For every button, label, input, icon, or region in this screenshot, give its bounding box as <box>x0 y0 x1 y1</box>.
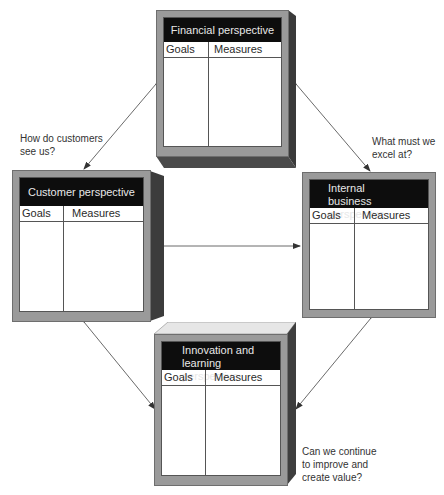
innovation-question-line1: Can we continue <box>302 445 377 458</box>
customer-perspective-box: Customer perspective Goals Measures <box>12 170 164 324</box>
arrow-customer-innovation <box>84 322 155 409</box>
column-divider <box>208 42 209 146</box>
innovation-question: Can we continue to improve and create va… <box>302 445 377 484</box>
table-header: Goals Measures <box>164 42 281 58</box>
innovation-title-line1: Innovation and <box>182 344 280 357</box>
box-frame: Customer perspective Goals Measures <box>12 170 151 322</box>
innovation-learning-perspective-box: Innovation and learning perspective Goal… <box>154 322 296 488</box>
perspective-title: Financial perspective <box>164 18 281 42</box>
measures-header: Measures <box>362 208 410 223</box>
arrow-internal-innovation <box>296 318 371 409</box>
financial-title: Financial perspective <box>171 24 274 37</box>
internal-question: What must we excel at? <box>372 135 435 161</box>
goals-header: Goals <box>22 206 51 221</box>
innovation-question-line3: create value? <box>302 471 377 484</box>
column-divider <box>354 208 355 309</box>
measures-header: Measures <box>214 42 262 57</box>
goals-header: Goals <box>166 42 195 57</box>
perspective-title: Innovation and learning perspective <box>162 342 280 370</box>
arrow-financial-internal <box>296 84 370 171</box>
internal-question-line2: excel at? <box>372 148 435 161</box>
table-header: Goals Measures <box>310 208 428 224</box>
balanced-scorecard-diagram: Financial perspective Goals Measures Cus… <box>0 0 444 495</box>
column-divider <box>63 206 64 311</box>
internal-question-line1: What must we <box>372 135 435 148</box>
table-header: Goals Measures <box>162 370 280 386</box>
measures-header: Measures <box>72 206 120 221</box>
scorecard-table: Customer perspective Goals Measures <box>19 177 144 312</box>
perspective-title: Customer perspective <box>20 178 143 206</box>
perspective-title: Internal business perspective <box>310 180 428 208</box>
customer-question-line1: How do customers <box>20 132 103 145</box>
scorecard-table: Innovation and learning perspective Goal… <box>161 341 281 476</box>
scorecard-table: Financial perspective Goals Measures <box>163 17 282 147</box>
internal-business-perspective-box: Internal business perspective Goals Meas… <box>302 172 436 318</box>
measures-header: Measures <box>214 370 262 385</box>
customer-question: How do customers see us? <box>20 132 103 158</box>
customer-question-line2: see us? <box>20 145 103 158</box>
innovation-question-line2: to improve and <box>302 458 377 471</box>
customer-title: Customer perspective <box>28 186 135 199</box>
box-frame: Internal business perspective Goals Meas… <box>302 172 436 318</box>
goals-header: Goals <box>312 208 341 223</box>
table-header: Goals Measures <box>20 206 143 222</box>
column-divider <box>205 370 206 475</box>
scorecard-table: Internal business perspective Goals Meas… <box>309 179 429 310</box>
internal-title-line1: Internal <box>328 182 428 195</box>
financial-perspective-box: Financial perspective Goals Measures <box>156 10 296 168</box>
goals-header: Goals <box>164 370 193 385</box>
box-frame: Innovation and learning perspective Goal… <box>154 334 288 486</box>
box-frame: Financial perspective Goals Measures <box>156 10 289 157</box>
